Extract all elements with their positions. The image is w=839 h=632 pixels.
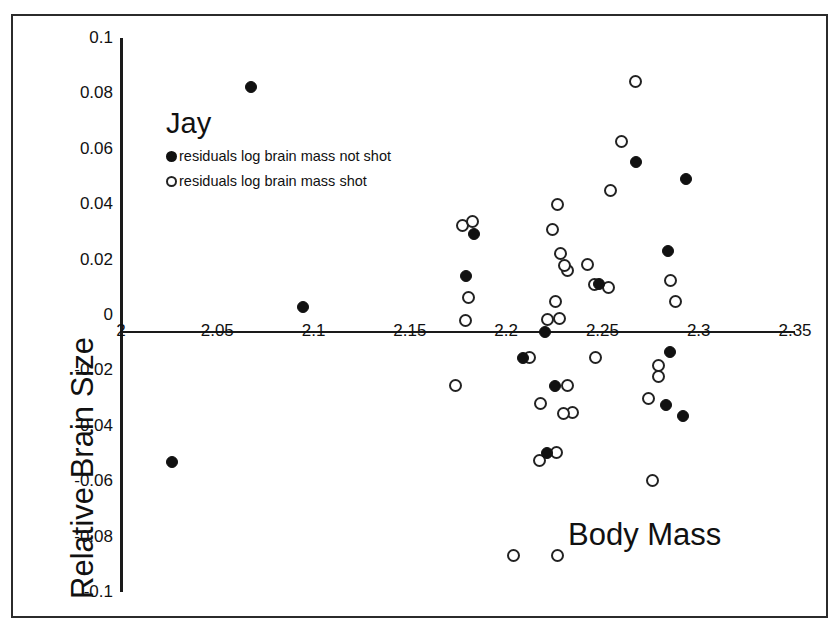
data-point-shot	[462, 291, 475, 304]
y-tick-label: 0.1	[0, 29, 113, 46]
x-tick-label: 2	[116, 322, 125, 339]
x-tick-label: 2.25	[586, 322, 619, 339]
data-point-shot	[615, 135, 628, 148]
data-point-not-shot	[664, 346, 676, 358]
data-point-shot	[551, 549, 564, 562]
filled-circle-icon	[166, 151, 177, 162]
legend-label-shot: residuals log brain mass shot	[179, 174, 367, 189]
data-point-shot	[604, 184, 617, 197]
data-point-shot	[553, 312, 566, 325]
legend: residuals log brain mass not shot residu…	[166, 146, 391, 196]
data-point-not-shot	[662, 245, 674, 257]
data-point-shot	[646, 474, 659, 487]
x-tick-label: 2.35	[778, 322, 811, 339]
data-point-not-shot	[517, 352, 529, 364]
x-axis-label: Body Mass	[568, 519, 721, 551]
figure-frame: 0.10.080.060.040.020-0.02-0.04-0.06-0.08…	[0, 0, 839, 632]
data-point-shot	[589, 351, 602, 364]
legend-label-not-shot: residuals log brain mass not shot	[179, 149, 391, 164]
y-axis-label-text: Relative Brain Size	[65, 303, 101, 632]
legend-item-not-shot: residuals log brain mass not shot	[166, 146, 391, 166]
scatter-plot: 0.10.080.060.040.020-0.02-0.04-0.06-0.08…	[0, 0, 839, 632]
legend-item-shot: residuals log brain mass shot	[166, 171, 391, 191]
y-axis-label: Relative Brain Size	[14, 150, 58, 480]
chart-title: Jay	[166, 108, 211, 138]
data-point-not-shot	[245, 81, 257, 93]
data-point-shot	[642, 392, 655, 405]
data-point-shot	[664, 274, 677, 287]
x-tick-label: 2.1	[302, 322, 326, 339]
data-point-shot	[561, 379, 574, 392]
x-tick-label: 2.3	[687, 322, 711, 339]
data-point-shot	[507, 549, 520, 562]
data-point-not-shot	[677, 410, 689, 422]
data-point-shot	[449, 379, 462, 392]
x-tick-label: 2.2	[494, 322, 518, 339]
data-point-shot	[551, 198, 564, 211]
data-point-not-shot	[460, 270, 472, 282]
data-point-shot	[541, 313, 554, 326]
data-point-shot	[581, 258, 594, 271]
data-point-not-shot	[549, 380, 561, 392]
data-point-not-shot	[593, 278, 605, 290]
data-point-not-shot	[468, 228, 480, 240]
y-axis-line	[120, 38, 123, 592]
x-tick-label: 2.05	[201, 322, 234, 339]
data-point-shot	[466, 215, 479, 228]
data-point-shot	[549, 295, 562, 308]
data-point-not-shot	[166, 456, 178, 468]
data-point-shot	[546, 223, 559, 236]
data-point-shot	[459, 314, 472, 327]
open-circle-icon	[166, 176, 177, 187]
data-point-shot	[669, 295, 682, 308]
y-tick-label: 0.08	[0, 84, 113, 101]
data-point-shot	[629, 75, 642, 88]
data-point-not-shot	[539, 326, 551, 338]
data-point-not-shot	[541, 447, 553, 459]
data-point-not-shot	[297, 301, 309, 313]
data-point-shot	[652, 359, 665, 372]
data-point-not-shot	[680, 173, 692, 185]
data-point-not-shot	[660, 399, 672, 411]
x-tick-label: 2.15	[393, 322, 426, 339]
data-point-not-shot	[630, 156, 642, 168]
data-point-shot	[534, 397, 547, 410]
